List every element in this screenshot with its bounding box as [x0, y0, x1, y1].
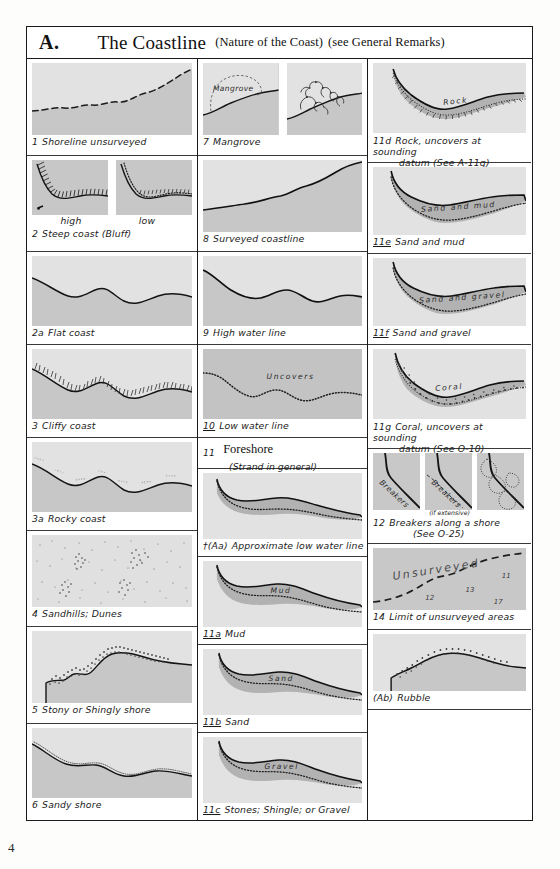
symbol-entry-4: 4Sandhills; Dunes — [27, 531, 197, 627]
figure-sandhills-dunes — [32, 535, 192, 607]
figure-gravel: Gravel — [203, 737, 362, 803]
symbol-entry-9: 9High water line — [198, 252, 367, 345]
figure-label-mud: Mud — [271, 586, 292, 595]
symbol-plate: A. The Coastline (Nature of the Coast) (… — [26, 26, 533, 821]
figure-label-uncovers: Uncovers — [267, 372, 315, 381]
symbol-entry-11g: Coral 11gCoral, uncovers at soundingdatu… — [368, 345, 531, 449]
page-subtitle: (Nature of the Coast) — [215, 35, 323, 50]
figure-label-gravel: Gravel — [265, 762, 299, 771]
symbol-entry-14: Unsurveyed 12 13 11 17 14Limit of unsurv… — [368, 544, 531, 630]
figure-row-bluff — [32, 160, 192, 215]
caption-9: 9High water line — [203, 328, 362, 339]
caption-7: 7Mangrove — [203, 137, 362, 148]
figure-breakers-dashed: Breakers — [425, 453, 472, 510]
svg-text:ᵗ ʳ ʳ ᵗ: ᵗ ʳ ʳ ᵗ — [166, 474, 176, 480]
empty-cell — [368, 710, 531, 807]
symbol-entry-11a: Mud 11aMud — [198, 557, 367, 645]
sounding-17: 17 — [494, 597, 503, 606]
symbol-entry-11f: Sand and gravel 11fSand and gravel — [368, 254, 531, 345]
symbol-entry-1: 1Shoreline unsurveyed — [27, 59, 197, 156]
symbol-entry-7: Mangrove — [198, 59, 367, 156]
symbol-columns: 1Shoreline unsurveyed — [27, 59, 532, 820]
figure-shoreline-unsurveyed — [32, 63, 192, 135]
figure-rocky-coast: ʳ ʳ ᵗ ʳ ʳ ᵗ ʳ ʳ ᵗ ʳ ʳ ᵗ ʳ ᵗ ʳ ᵗ ʳ ʳ ᵗ ʳ … — [32, 442, 192, 512]
symbol-entry-2a: 2aFlat coast — [27, 252, 197, 345]
symbol-entry-3a: ʳ ʳ ᵗ ʳ ʳ ᵗ ʳ ʳ ᵗ ʳ ʳ ᵗ ʳ ᵗ ʳ ᵗ ʳ ʳ ᵗ ʳ … — [27, 438, 197, 531]
caption-11f: 11fSand and gravel — [373, 328, 526, 339]
caption-3: 3Cliffy coast — [32, 421, 192, 432]
symbol-entry-11c: Gravel 11cStones; Shingle; or Gravel — [198, 733, 367, 821]
figure-mud: Mud — [203, 561, 362, 627]
column-3: Rock 11dRock, uncovers at soundingdatum … — [368, 59, 531, 820]
figure-surveyed-coastline — [203, 160, 362, 232]
column-1: 1Shoreline unsurveyed — [27, 59, 198, 820]
chart-symbol-page: A. The Coastline (Nature of the Coast) (… — [0, 0, 560, 869]
caption-8: 8Surveyed coastline — [203, 234, 362, 245]
symbol-entry-5: 5Stony or Shingly shore — [27, 627, 197, 724]
symbol-entry-11-foreshore: 11 Foreshore (Strand in general) — [198, 438, 367, 469]
caption-12: 12Breakers along a shore(See O-25) — [373, 518, 526, 540]
caption-14: 14Limit of unsurveyed areas — [373, 612, 526, 623]
figure-breakers-solid: Breakers — [373, 453, 420, 510]
figure-sand-and-mud: Sand and mud — [373, 167, 526, 235]
figure-low-water-line: Uncovers — [203, 349, 362, 419]
page-subtitle-2: (see General Remarks) — [328, 35, 445, 50]
symbol-entry-10: Uncovers 10Low water line — [198, 345, 367, 438]
figure-breakers-extensive — [477, 453, 524, 510]
symbol-entry-11b: Sand 11bSand — [198, 645, 367, 733]
figure-high-water-line — [203, 256, 362, 326]
column-2: Mangrove — [198, 59, 368, 820]
figure-row-breakers: Breakers Breakers — [373, 453, 526, 510]
figure-rubble — [373, 634, 526, 691]
symbol-entry-8: 8Surveyed coastline — [198, 156, 367, 252]
svg-text:Mangrove: Mangrove — [213, 84, 254, 93]
figure-unsurveyed-limit: Unsurveyed 12 13 11 17 — [373, 548, 526, 610]
caption-11e: 11eSand and mud — [373, 237, 526, 248]
symbol-entry-aa: †(Aa)Approximate low water line — [198, 469, 367, 557]
caption-2a: 2aFlat coast — [32, 328, 192, 339]
figure-stony-shingly-shore — [32, 631, 192, 703]
symbol-entry-3: 3Cliffy coast — [27, 345, 197, 438]
figure-bluff-high — [32, 160, 108, 215]
symbol-entry-2: highlow 2Steep coast (Bluff) — [27, 156, 197, 252]
caption-ab: (Ab)Rubble — [373, 693, 526, 704]
figure-coral-uncovers: Coral — [373, 349, 526, 419]
caption-11c: 11cStones; Shingle; or Gravel — [203, 805, 362, 816]
figure-mangrove-label: Mangrove — [203, 63, 279, 135]
symbol-entry-11d: Rock 11dRock, uncovers at soundingdatum … — [368, 59, 531, 163]
sounding-13: 13 — [466, 585, 475, 594]
plate-title-bar: A. The Coastline (Nature of the Coast) (… — [27, 27, 532, 59]
caption-11a: 11aMud — [203, 629, 362, 640]
figure-flat-coast — [32, 256, 192, 326]
figure-approx-low-water-line — [203, 473, 362, 539]
figure-sandy-shore — [32, 728, 192, 798]
symbol-entry-12: Breakers Breakers — [368, 449, 531, 544]
sublabel-low: low — [108, 216, 186, 227]
foreshore-heading: Foreshore — [223, 442, 273, 457]
symbol-entry-6: 6Sandy shore — [27, 724, 197, 817]
sounding-11: 11 — [502, 571, 511, 580]
figure-sand-and-gravel: Sand and gravel — [373, 258, 526, 326]
figure-row-mangrove: Mangrove — [203, 63, 362, 135]
sublabel-high: high — [34, 216, 108, 227]
svg-text:ᵗ ʳ ʳ ᵗ: ᵗ ʳ ʳ ᵗ — [76, 477, 86, 483]
figure-sand: Sand — [203, 649, 362, 715]
sounding-12: 12 — [425, 593, 434, 602]
figure-label-sand: Sand — [269, 674, 294, 683]
figure-rock-uncovers: Rock — [373, 63, 526, 133]
caption-3a: 3aRocky coast — [32, 514, 192, 525]
figure-bluff-low — [116, 160, 192, 215]
section-letter: A. — [39, 31, 59, 54]
symbol-entry-ab: (Ab)Rubble — [368, 630, 531, 710]
caption-10: 10Low water line — [203, 421, 362, 432]
caption-1: 1Shoreline unsurveyed — [32, 137, 192, 148]
caption-2: 2Steep coast (Bluff) — [32, 229, 192, 240]
foreshore-num: 11 — [203, 448, 219, 459]
caption-4: 4Sandhills; Dunes — [32, 609, 192, 620]
breakers-note: (if extensive) — [373, 509, 526, 516]
figure-cliffy-coast — [32, 349, 192, 419]
caption-11b: 11bSand — [203, 717, 362, 728]
caption-6: 6Sandy shore — [32, 800, 192, 811]
caption-5: 5Stony or Shingly shore — [32, 705, 192, 716]
sublabel-row-bluff: highlow — [34, 216, 192, 227]
